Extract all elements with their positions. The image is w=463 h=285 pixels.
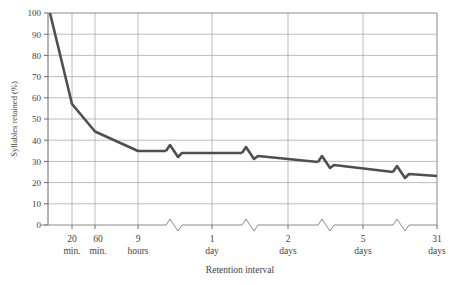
x-tick-marks [72,225,437,229]
ytick-label-60: 60 [32,93,42,103]
xtick-label-9hours-value: 9 [136,234,141,244]
x-tick-labels: 20 min. 60 min. 9 hours 1 day 2 days 5 d… [63,234,446,256]
xtick-label-1day-unit: day [205,246,219,256]
xtick-label-20min-unit: min. [63,246,80,256]
xtick-label-60min-value: 60 [93,234,103,244]
ytick-label-70: 70 [32,72,42,82]
ytick-label-20: 20 [32,178,42,188]
xtick-label-31days-unit: days [428,246,446,256]
xtick-label-2days-value: 2 [286,234,291,244]
xtick-label-9hours-unit: hours [127,246,148,256]
ytick-label-40: 40 [32,136,42,146]
chart-canvas: 100 90 80 70 60 50 40 30 20 10 0 Syllabl… [0,0,463,285]
y-tick-marks [44,13,48,225]
xtick-label-31days-value: 31 [432,234,442,244]
ytick-label-50: 50 [32,114,42,124]
xtick-label-5days-value: 5 [361,234,366,244]
ytick-label-100: 100 [28,8,42,18]
xtick-label-1day-value: 1 [210,234,215,244]
y-axis-title: Syllables retained (%) [9,81,19,157]
ytick-label-80: 80 [32,51,42,61]
y-tick-labels: 100 90 80 70 60 50 40 30 20 10 0 [28,8,42,230]
ytick-label-30: 30 [32,157,42,167]
xtick-label-60min-unit: min. [89,246,106,256]
xtick-label-5days-unit: days [354,246,372,256]
ytick-label-10: 10 [32,199,42,209]
xtick-label-20min-value: 20 [67,234,77,244]
ytick-label-90: 90 [32,30,42,40]
xtick-label-2days-unit: days [279,246,297,256]
x-axis-title: Retention interval [206,265,275,275]
forgetting-curve-figure: 100 90 80 70 60 50 40 30 20 10 0 Syllabl… [0,0,463,285]
